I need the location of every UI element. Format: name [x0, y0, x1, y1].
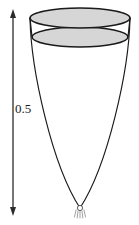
vertex-fringe-line [84, 210, 86, 217]
vertex-fringe-line [82, 211, 83, 218]
vertex-circle-icon [77, 205, 82, 210]
vertex-fringe-line [75, 210, 77, 217]
bottom-vertex-fitting [75, 205, 86, 218]
dimension-arrowhead-top [10, 9, 16, 18]
top-ellipse-rim [30, 8, 130, 28]
vertex-fringe-line [77, 211, 78, 218]
liquid-surface-ellipse [32, 27, 128, 47]
figure-canvas: 0.5 [0, 0, 139, 225]
dimension-label: 0.5 [15, 101, 31, 117]
dimension-arrowhead-bottom [10, 207, 16, 216]
